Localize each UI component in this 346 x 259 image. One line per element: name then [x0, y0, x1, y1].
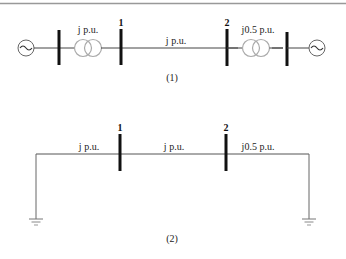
generator-left [18, 40, 34, 56]
bus-1-label: 1 [119, 17, 124, 28]
bus-1-label: 1 [118, 122, 123, 133]
bus-2-label: 2 [224, 122, 229, 133]
generator-right [309, 40, 325, 56]
caption-2: (2) [166, 233, 178, 245]
diagram-canvas: j p.u. 1 j p.u. 2 j0.5 p.u. (1) [0, 0, 346, 259]
transformer-2: j0.5 p.u. [227, 24, 283, 58]
bus-2-label: 2 [225, 17, 230, 28]
left-reactance-label: j p.u. [78, 141, 99, 152]
ground-icon-right [302, 219, 316, 225]
line-reactance-label: j p.u. [165, 35, 186, 46]
transformer-1-reactance-label: j p.u. [77, 24, 98, 35]
right-reactance-label: j0.5 p.u. [241, 141, 275, 152]
line-reactance-label: j p.u. [163, 141, 184, 152]
single-line-diagram: j p.u. 1 j p.u. 2 j0.5 p.u. (1) [18, 17, 325, 84]
reactance-diagram: 1 2 j p.u. j p.u. j0.5 p.u. (2) [29, 122, 316, 245]
caption-1: (1) [166, 72, 178, 84]
transformer-2-reactance-label: j0.5 p.u. [241, 24, 275, 35]
ground-icon-left [29, 219, 43, 225]
transformer-1: j p.u. [72, 24, 102, 57]
